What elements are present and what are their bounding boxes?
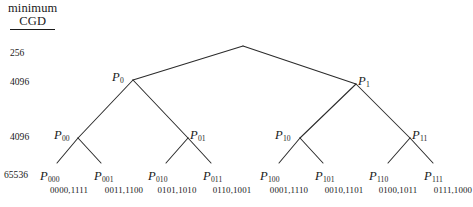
tree-edge-P10-P101	[300, 138, 323, 163]
node-label-p10[interactable]: P10	[275, 128, 291, 143]
cgd-value-0: 256	[10, 47, 24, 58]
tree-edge-root-P1	[243, 46, 356, 84]
node-label-p1[interactable]: P1	[358, 74, 370, 89]
tree-edge-P00-P001	[78, 138, 101, 163]
tree-edge-P0-P00	[78, 80, 133, 138]
leaf-bits-p010: 0101,1010	[157, 185, 196, 195]
leaf-label-p010[interactable]: P010	[148, 169, 167, 184]
leaf-bits-p110: 0100,1011	[379, 185, 418, 195]
node-label-p01[interactable]: P01	[190, 128, 206, 143]
node-label-p11[interactable]: P11	[412, 128, 427, 143]
leaf-label-p001[interactable]: P001	[94, 169, 113, 184]
leaf-bits-p001: 0011,1100	[105, 185, 143, 195]
leaf-label-p110[interactable]: P110	[369, 169, 388, 184]
tree-edge-P1-P10	[300, 84, 356, 138]
cgd-value-2: 4096	[10, 131, 29, 142]
leaf-bits-p000: 0000,1111	[50, 185, 88, 195]
leaf-label-p011[interactable]: P011	[203, 169, 222, 184]
node-label-p00[interactable]: P00	[54, 128, 70, 143]
binary-tree-figure: minimum CGD 2564096409665536 P0P1P00P01P…	[0, 0, 473, 207]
leaf-bits-p111: 0111,1000	[434, 185, 472, 195]
edge-group	[57, 46, 433, 163]
leaf-bits-p011: 0110,1001	[213, 185, 252, 195]
leaf-bits-p101: 0010,1101	[325, 185, 364, 195]
leaf-label-p111[interactable]: P111	[424, 169, 443, 184]
tree-edge-P01-P010	[166, 138, 188, 163]
cgd-value-1: 4096	[10, 76, 29, 87]
tree-edge-P0-P01	[133, 80, 188, 138]
leaf-label-p101[interactable]: P101	[315, 169, 334, 184]
tree-edge-P1-P11	[356, 84, 410, 138]
cgd-value-3: 65536	[4, 169, 28, 180]
tree-edge-root-P0	[133, 46, 243, 80]
leaf-label-p000[interactable]: P000	[40, 169, 59, 184]
tree-edge-P11-P110	[388, 138, 410, 163]
node-label-p0[interactable]: P0	[112, 70, 124, 85]
tree-edges-svg	[0, 0, 473, 207]
leaf-label-p100[interactable]: P100	[260, 169, 279, 184]
leaf-bits-p100: 0001,1110	[270, 185, 308, 195]
